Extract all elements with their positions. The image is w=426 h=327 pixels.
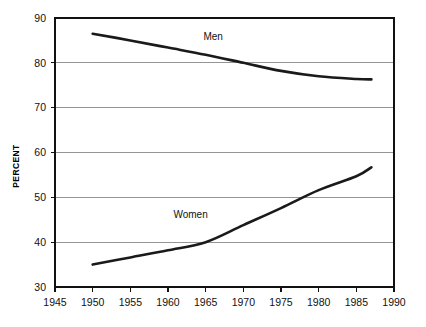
y-tick-label-80: 80 — [34, 57, 46, 69]
line-chart-figure: 30405060708090 1945195019551960196519701… — [0, 0, 426, 327]
chart-background — [0, 0, 426, 327]
x-tick-label-1950: 1950 — [81, 296, 105, 308]
series-label-men: Men — [203, 31, 222, 42]
y-tick-label-90: 90 — [34, 12, 46, 24]
y-axis-title: PERCENT — [11, 144, 21, 188]
x-tick-label-1965: 1965 — [194, 296, 218, 308]
chart-canvas: 30405060708090 1945195019551960196519701… — [0, 0, 426, 327]
x-tick-label-1960: 1960 — [156, 296, 180, 308]
x-tick-label-1955: 1955 — [119, 296, 143, 308]
x-tick-label-1980: 1980 — [307, 296, 331, 308]
y-tick-label-70: 70 — [34, 101, 46, 113]
x-tick-label-1970: 1970 — [232, 296, 256, 308]
series-label-women: Women — [173, 209, 207, 220]
y-tick-label-60: 60 — [34, 146, 46, 158]
y-tick-label-40: 40 — [34, 236, 46, 248]
y-tick-label-50: 50 — [34, 191, 46, 203]
x-tick-label-1945: 1945 — [43, 296, 67, 308]
x-tick-label-1985: 1985 — [345, 296, 369, 308]
y-tick-label-30: 30 — [34, 281, 46, 293]
x-tick-label-1990: 1990 — [382, 296, 406, 308]
x-tick-label-1975: 1975 — [269, 296, 293, 308]
